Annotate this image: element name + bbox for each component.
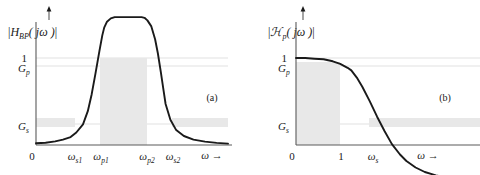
y-axis-label-sub-a: BP xyxy=(19,32,29,41)
x-tick-ws1-sub: s1 xyxy=(76,156,83,165)
x-tick-labels-a: ωs1 ωp1 ωp2 ωs2 ω → xyxy=(68,149,223,165)
origin-label-b: 0 xyxy=(289,150,295,162)
passband-tolerance-box-b xyxy=(296,62,340,145)
x-tick-wp1-sub: p1 xyxy=(100,156,109,165)
x-axis-label-a: ω → xyxy=(201,149,223,161)
x-axis-label-b: ω → xyxy=(417,149,439,161)
lower-stopband-tolerance-bar-a xyxy=(36,118,75,127)
y-tick-gp-main-b: G xyxy=(278,62,286,74)
y-axis-label-b: |ℋp( jω )| xyxy=(268,25,315,41)
panel-tag-a: (a) xyxy=(206,92,217,104)
y-axis-label-arg-b: ( jω ) xyxy=(286,25,312,39)
y-tick-gs-main-a: G xyxy=(18,120,26,132)
stopband-tolerance-bar-b xyxy=(369,118,480,127)
y-tick-gp-main-a: G xyxy=(18,62,26,74)
y-tick-gs-sub-b: s xyxy=(286,126,289,135)
x-tick-label-ws1: ωs1 xyxy=(68,150,82,165)
x-tick-label-one-b: 1 xyxy=(338,150,344,162)
lowpass-chart: |ℋp( jω )| 1 Gp Gs 0 xyxy=(240,0,480,175)
panel-tag-b: (b) xyxy=(439,92,451,104)
y-tick-label-gp-b: Gp xyxy=(278,62,290,77)
bandpass-chart: |HBP( jω )| 1 Gp Gs 0 xyxy=(0,0,240,175)
y-tick-labels-a: 1 Gp Gs 0 xyxy=(18,52,35,162)
origin-label-a: 0 xyxy=(29,150,35,162)
x-tick-label-ws2: ωs2 xyxy=(166,150,181,165)
y-axis-label-bar-close-b: | xyxy=(312,25,314,39)
y-axis-label-group-b: |ℋp( jω )| xyxy=(268,6,315,41)
y-axis-label-group-a: |HBP( jω )| xyxy=(8,6,57,41)
y-tick-label-gs-b: Gs xyxy=(278,120,289,135)
y-tick-label-gp-a: Gp xyxy=(18,62,30,77)
x-tick-labels-b: 1 ωs ω → xyxy=(338,149,439,165)
y-tick-label-gs-a: Gs xyxy=(18,120,29,135)
y-tick-gp-sub-b: p xyxy=(285,68,290,77)
y-tick-gs-sub-a: s xyxy=(26,126,29,135)
y-axis-label-bar-close-a: | xyxy=(55,25,57,39)
x-tick-label-ws-b: ωs xyxy=(368,150,379,165)
y-axis-arrow-head-b xyxy=(301,6,306,12)
y-tick-gp-sub-a: p xyxy=(25,68,30,77)
passband-tolerance-box-a xyxy=(100,58,147,145)
y-axis-label-a: |HBP( jω )| xyxy=(8,25,57,41)
x-tick-label-wp2: ωp2 xyxy=(139,150,155,165)
y-tick-labels-b: 1 Gp Gs 0 xyxy=(278,52,295,162)
x-tick-ws-sub-b: s xyxy=(375,156,378,165)
y-tick-gs-main-b: G xyxy=(278,120,286,132)
y-axis-label-arg-a: ( jω ) xyxy=(29,25,55,39)
panel-lowpass-prototype: |ℋp( jω )| 1 Gp Gs 0 xyxy=(240,0,480,175)
panel-bandpass: |HBP( jω )| 1 Gp Gs 0 xyxy=(0,0,240,175)
y-axis-arrow-head-a xyxy=(47,6,52,12)
x-tick-wp2-sub: p2 xyxy=(146,156,155,165)
x-tick-label-wp1: ωp1 xyxy=(93,150,108,165)
upper-stopband-tolerance-bar-a xyxy=(172,118,228,127)
x-tick-ws2-sub: s2 xyxy=(174,156,181,165)
figure-filter-tolerance-schemes: |HBP( jω )| 1 Gp Gs 0 xyxy=(0,0,480,175)
